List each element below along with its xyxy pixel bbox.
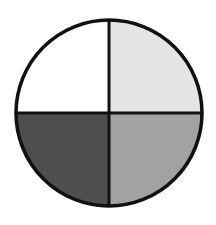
quartered-circle-diagram (0, 0, 216, 225)
